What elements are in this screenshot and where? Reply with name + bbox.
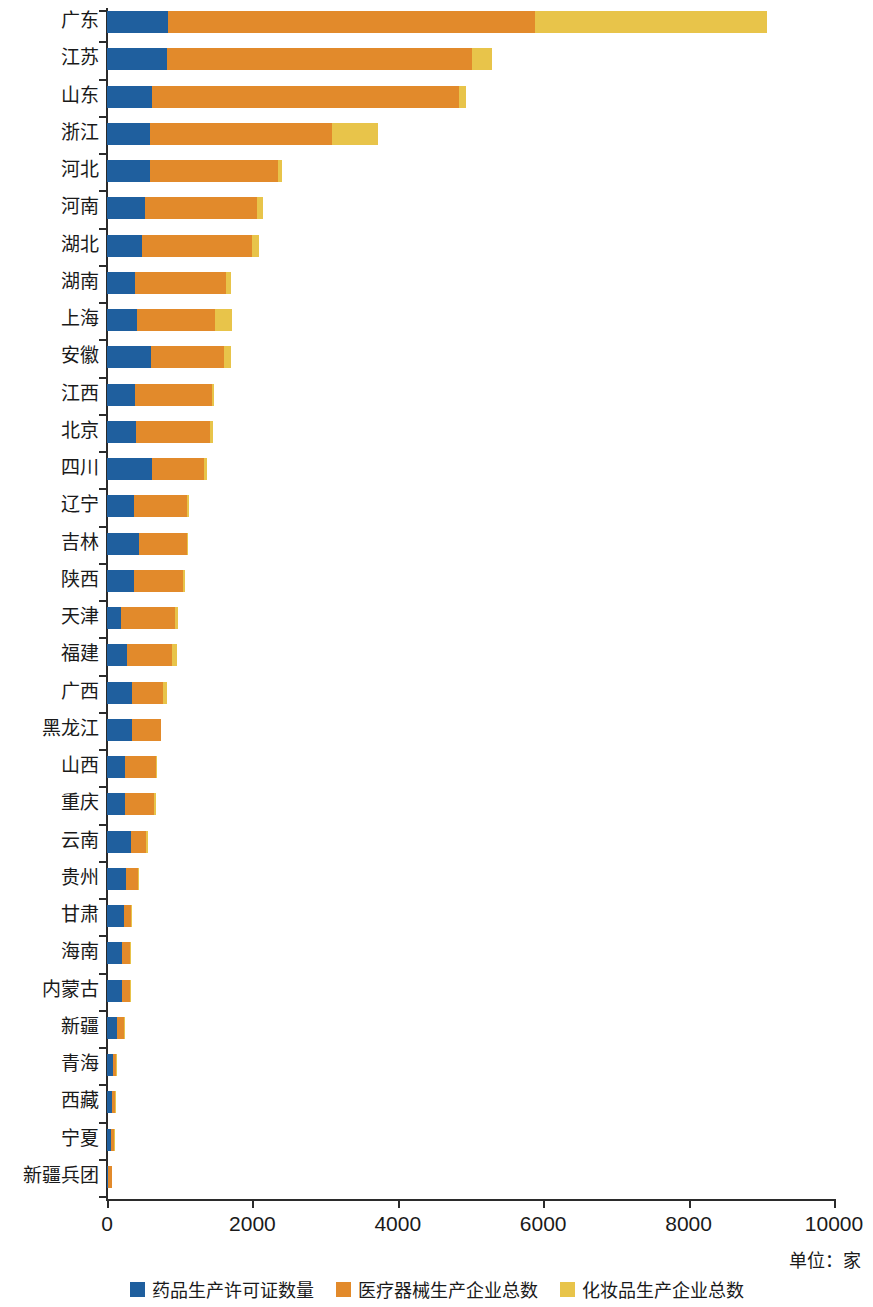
bar-segment <box>226 272 231 294</box>
y-axis-tick <box>99 79 107 81</box>
bar-row <box>107 1166 112 1188</box>
y-axis-tick <box>99 190 107 192</box>
y-axis-category-label: 辽宁 <box>0 494 99 516</box>
bar-segment <box>132 719 161 741</box>
bar-segment <box>154 793 156 815</box>
legend-item: 化妆品生产企业总数 <box>560 1276 744 1302</box>
y-axis-tick <box>99 1122 107 1124</box>
bar-segment <box>115 1091 116 1113</box>
y-axis-category-label: 福建 <box>0 643 99 665</box>
bar-segment <box>107 533 139 555</box>
y-axis-tick <box>99 563 107 565</box>
bar-row <box>107 48 492 70</box>
y-axis-tick <box>99 451 107 453</box>
bar-segment <box>124 1017 125 1039</box>
bar-segment <box>175 607 179 629</box>
legend-label: 化妆品生产企业总数 <box>582 1276 744 1302</box>
x-axis-tick-label: 10000 <box>805 1211 863 1237</box>
bar-segment <box>135 272 226 294</box>
bar-segment <box>107 235 142 257</box>
bar-row <box>107 831 148 853</box>
x-axis-tick-label: 4000 <box>374 1211 421 1237</box>
y-axis-tick <box>99 973 107 975</box>
bar-row <box>107 123 378 145</box>
bar-segment <box>142 235 253 257</box>
bar-segment <box>107 197 145 219</box>
bar-segment <box>121 607 175 629</box>
y-axis-tick <box>99 1010 107 1012</box>
bar-segment <box>107 570 134 592</box>
bar-segment <box>107 160 150 182</box>
y-axis-category-label: 青海 <box>0 1053 99 1075</box>
bar-segment <box>108 1166 112 1188</box>
unit-note: 单位：家 <box>789 1246 861 1272</box>
bar-row <box>107 1054 117 1076</box>
y-axis-tick <box>99 824 107 826</box>
bar-segment <box>126 868 138 890</box>
legend-item: 药品生产许可证数量 <box>130 1276 314 1302</box>
y-axis-tick <box>99 414 107 416</box>
y-axis-category-label: 天津 <box>0 606 99 628</box>
y-axis-tick <box>99 265 107 267</box>
y-axis-category-label: 甘肃 <box>0 904 99 926</box>
bar-segment <box>151 346 224 368</box>
legend-label: 药品生产许可证数量 <box>152 1276 314 1302</box>
y-axis-tick <box>99 675 107 677</box>
y-axis-category-label: 北京 <box>0 420 99 442</box>
chart-legend: 药品生产许可证数量医疗器械生产企业总数化妆品生产企业总数 <box>0 1276 873 1302</box>
y-axis-tick <box>99 228 107 230</box>
bar-segment <box>125 756 156 778</box>
bar-segment <box>107 123 150 145</box>
bar-segment <box>145 197 258 219</box>
bar-row <box>107 868 139 890</box>
x-axis-tick <box>543 1199 545 1208</box>
bar-segment <box>107 756 125 778</box>
bar-segment <box>168 11 535 33</box>
bar-segment <box>150 123 332 145</box>
bar-segment <box>124 905 131 927</box>
bar-row <box>107 384 214 406</box>
legend-item: 医疗器械生产企业总数 <box>336 1276 538 1302</box>
bar-segment <box>146 831 148 853</box>
bar-row <box>107 160 282 182</box>
bar-segment <box>125 793 154 815</box>
bar-segment <box>127 644 172 666</box>
y-axis-tick <box>99 302 107 304</box>
bar-segment <box>210 421 213 443</box>
bar-segment <box>212 384 214 406</box>
bar-row <box>107 86 466 108</box>
bar-segment <box>107 11 168 33</box>
bar-segment <box>107 831 131 853</box>
y-axis-category-label: 四川 <box>0 457 99 479</box>
bar-segment <box>122 980 130 1002</box>
y-axis-tick <box>99 41 107 43</box>
bar-segment <box>134 495 187 517</box>
y-axis-tick <box>99 712 107 714</box>
bar-segment <box>107 346 151 368</box>
bar-row <box>107 495 189 517</box>
bar-segment <box>150 160 278 182</box>
bar-segment <box>107 309 137 331</box>
y-axis-category-label: 湖北 <box>0 234 99 256</box>
y-axis-category-label: 海南 <box>0 941 99 963</box>
bar-row <box>107 980 131 1002</box>
y-axis-category-label: 广东 <box>0 10 99 32</box>
bar-segment <box>252 235 259 257</box>
bar-segment <box>187 495 189 517</box>
y-axis-tick <box>99 116 107 118</box>
bar-row <box>107 235 259 257</box>
bar-row <box>107 197 263 219</box>
y-axis-category-label: 上海 <box>0 308 99 330</box>
x-axis-tick <box>689 1199 691 1208</box>
x-axis-tick-label: 8000 <box>665 1211 712 1237</box>
y-axis-category-label: 山西 <box>0 755 99 777</box>
bar-row <box>107 1129 115 1151</box>
y-axis-tick <box>99 749 107 751</box>
bar-segment <box>332 123 378 145</box>
y-axis-tick <box>99 861 107 863</box>
bar-segment <box>224 346 231 368</box>
bar-segment <box>122 942 130 964</box>
x-axis-tick-label: 2000 <box>229 1211 276 1237</box>
y-axis-category-label: 河南 <box>0 196 99 218</box>
y-axis-category-label: 内蒙古 <box>0 979 99 1001</box>
